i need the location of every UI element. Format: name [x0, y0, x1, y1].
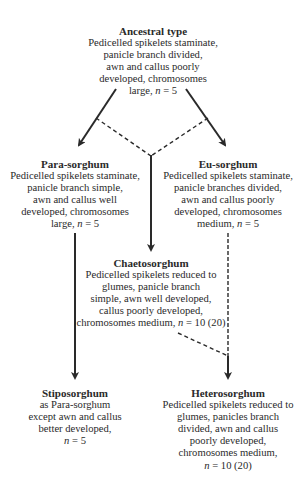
node-text: simple, awn well developed, — [76, 293, 226, 305]
node-text: large, n = 5 — [78, 85, 228, 97]
node-stiposorghum: Stiposorghum as Para-sorghum except awn … — [20, 387, 130, 447]
node-title: Chaetosorghum — [76, 257, 226, 269]
node-text: glumes, panicles branch — [154, 411, 302, 423]
node-text: Pedicelled spikelets reduced to — [154, 399, 302, 411]
node-eu-sorghum: Eu-sorghum Pedicelled spikelets staminat… — [157, 158, 299, 231]
node-text: large, n = 5 — [4, 218, 146, 230]
node-text: developed, chromosomes — [4, 206, 146, 218]
node-text: Pedicelled spikelets staminate, — [4, 170, 146, 182]
node-text: better developed, — [20, 423, 130, 435]
node-title: Para-sorghum — [4, 158, 146, 170]
node-text: panicle branch divided, — [78, 49, 228, 61]
node-text: except awn and callus — [20, 411, 130, 423]
node-text: medium, n = 5 — [157, 218, 299, 230]
node-text: poorly developed, — [154, 435, 302, 447]
edge-right-dashed-branch — [151, 118, 208, 156]
node-title: Stiposorghum — [20, 387, 130, 399]
node-text: panicle branches divided, — [157, 182, 299, 194]
node-text: chromosomes medium, n = 10 (20) — [76, 317, 226, 329]
node-ancestral-type: Ancestral type Pedicelled spikelets stam… — [78, 25, 228, 98]
node-text: callus poorly developed, — [76, 305, 226, 317]
node-text: Pedicelled spikelets reduced to — [76, 269, 226, 281]
node-text: developed, chromosomes — [157, 206, 299, 218]
node-text: developed, chromosomes — [78, 73, 228, 85]
node-para-sorghum: Para-sorghum Pedicelled spikelets stamin… — [4, 158, 146, 231]
node-title: Heterosorghum — [154, 387, 302, 399]
node-text: chromosomes medium, — [154, 447, 302, 459]
node-text: awn and callus well — [4, 194, 146, 206]
edge-left-dashed-branch — [96, 118, 151, 156]
node-text: divided, awn and callus — [154, 423, 302, 435]
node-title: Ancestral type — [78, 25, 228, 37]
node-text: awn and callus poorly — [157, 194, 299, 206]
edge-chaeto-hetero — [178, 333, 228, 356]
node-text: n = 5 — [20, 435, 130, 447]
node-text: as Para-sorghum — [20, 399, 130, 411]
node-chaetosorghum: Chaetosorghum Pedicelled spikelets reduc… — [76, 257, 226, 330]
node-text: Pedicelled spikelets staminate, — [157, 170, 299, 182]
node-heterosorghum: Heterosorghum Pedicelled spikelets reduc… — [154, 387, 302, 472]
node-text: glumes, panicle branch — [76, 281, 226, 293]
node-text: Pedicelled spikelets staminate, — [78, 37, 228, 49]
node-text: n = 10 (20) — [154, 460, 302, 472]
node-text: panicle branch simple, — [4, 182, 146, 194]
node-text: awn and callus poorly — [78, 61, 228, 73]
node-title: Eu-sorghum — [157, 158, 299, 170]
